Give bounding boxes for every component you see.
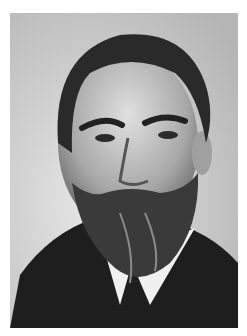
portrait-photo bbox=[10, 13, 238, 328]
portrait-illustration bbox=[10, 13, 238, 328]
